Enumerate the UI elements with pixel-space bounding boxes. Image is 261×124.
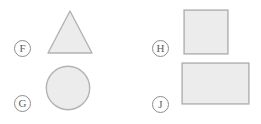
option-letter-j: J: [158, 99, 162, 110]
square-shape: [184, 10, 228, 54]
figure-triangle: [46, 9, 94, 55]
option-bubble-h[interactable]: H: [152, 40, 169, 57]
option-letter-f: F: [19, 43, 25, 54]
circle-shape: [46, 66, 89, 109]
figure-rectangle: [181, 62, 250, 105]
option-bubble-j[interactable]: J: [152, 96, 169, 113]
figure-circle: [45, 65, 91, 111]
option-bubble-f[interactable]: F: [14, 40, 31, 57]
option-letter-g: G: [19, 98, 27, 109]
rectangle-shape: [182, 63, 249, 104]
answer-choices-panel: F G H J: [0, 0, 261, 124]
figure-square: [183, 9, 229, 55]
triangle-shape: [48, 11, 92, 53]
option-letter-h: H: [157, 43, 165, 54]
option-bubble-g[interactable]: G: [14, 95, 31, 112]
